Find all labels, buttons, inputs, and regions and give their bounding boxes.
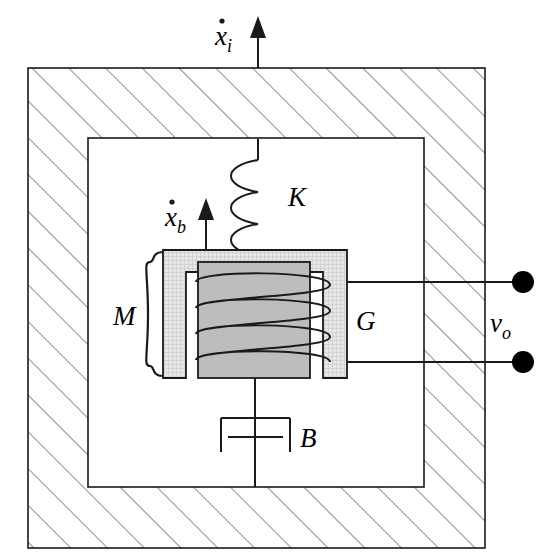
spring-label: K <box>287 182 308 212</box>
mechanical-transducer-diagram: xi K xb M <box>0 0 557 555</box>
body-velocity-dot-accent <box>169 199 174 204</box>
mass-label: M <box>112 301 137 331</box>
terminal-bottom[interactable] <box>512 351 534 373</box>
damper-label: B <box>300 423 317 453</box>
output-voltage-subscript: o <box>502 323 511 343</box>
terminal-top[interactable] <box>512 271 534 293</box>
body-velocity-subscript: b <box>177 217 186 237</box>
diagram-canvas: xi K xb M <box>0 0 557 555</box>
input-velocity-base: x <box>214 21 227 51</box>
body-velocity-base: x <box>164 202 177 232</box>
output-voltage-base: v <box>490 308 502 338</box>
coil-label: G <box>356 306 376 336</box>
input-velocity-dot-accent <box>219 18 224 23</box>
input-velocity-subscript: i <box>227 36 232 56</box>
